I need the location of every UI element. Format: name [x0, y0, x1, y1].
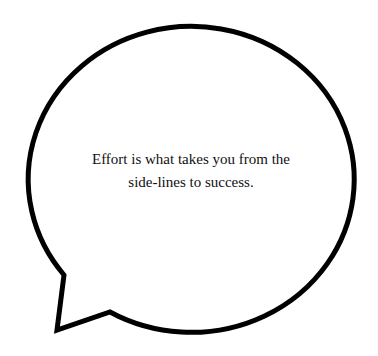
quote-line-2: side-lines to success.: [60, 171, 322, 194]
quote-text: Effort is what takes you from the side-l…: [60, 148, 322, 194]
quote-line-1: Effort is what takes you from the: [60, 148, 322, 171]
